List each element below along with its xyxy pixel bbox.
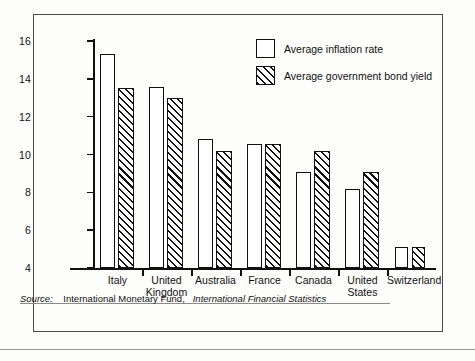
x-axis-label: United States [338, 274, 387, 298]
y-tick [87, 116, 94, 118]
plot-area: 46810121416 ItalyUnited KingdomAustralia… [34, 15, 444, 333]
bar-inflation-rate [198, 139, 214, 268]
source-note: Source: International Monetary Fund, Int… [20, 293, 326, 304]
bar-bond-yield [412, 247, 425, 268]
x-axis-line [70, 268, 436, 270]
y-tick [87, 229, 94, 231]
bar-bond-yield [314, 151, 330, 268]
bar-inflation-rate [395, 247, 408, 268]
y-tick [87, 78, 94, 80]
bar-group [198, 39, 232, 268]
bar-inflation-rate [296, 172, 312, 268]
bar-bond-yield [265, 144, 281, 268]
bar-inflation-rate [149, 87, 165, 268]
y-tick-label: 12 [19, 111, 31, 123]
bar-bond-yield [167, 98, 183, 268]
bar-group [100, 39, 134, 268]
bar-bond-yield [363, 172, 379, 268]
legend-swatch-hatched [256, 66, 275, 85]
y-tick-label: 14 [19, 73, 31, 85]
y-tick-label: 8 [25, 186, 31, 198]
page-rule [0, 349, 475, 350]
x-axis-label: Italy [93, 274, 142, 286]
chart-legend: Average inflation rateAverage government… [256, 39, 432, 93]
y-tick-label: 16 [19, 35, 31, 47]
bar-bond-yield [216, 151, 232, 268]
bar-inflation-rate [247, 144, 263, 268]
x-axis-label: Switzerland [387, 274, 436, 286]
x-axis-label: France [240, 274, 289, 286]
bar-inflation-rate [100, 54, 116, 268]
legend-label: Average inflation rate [284, 43, 383, 55]
x-axis-label: Australia [191, 274, 240, 286]
bar-group [149, 39, 183, 268]
legend-swatch-open [256, 39, 275, 58]
source-body: International Monetary Fund, [63, 293, 184, 304]
bar-bond-yield [118, 88, 134, 268]
source-label: Source: [20, 293, 53, 304]
y-tick [87, 40, 94, 42]
bar-inflation-rate [345, 189, 361, 268]
y-tick-label: 4 [25, 262, 31, 274]
legend-label: Average government bond yield [284, 70, 432, 82]
y-tick [87, 267, 94, 269]
source-publication: International Financial Statistics [193, 293, 327, 304]
x-axis-label: Canada [289, 274, 338, 286]
y-tick-label: 6 [25, 224, 31, 236]
legend-item: Average government bond yield [256, 66, 432, 85]
chart-frame: 46810121416 ItalyUnited KingdomAustralia… [33, 14, 443, 332]
y-tick [87, 154, 94, 156]
y-tick [87, 192, 94, 194]
y-tick-label: 10 [19, 149, 31, 161]
legend-item: Average inflation rate [256, 39, 432, 58]
